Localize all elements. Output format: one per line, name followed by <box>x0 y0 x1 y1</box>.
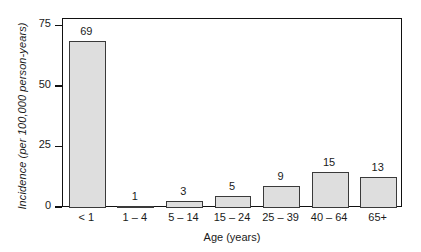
bar <box>263 186 300 208</box>
bar-value-label: 15 <box>305 156 354 168</box>
x-axis-tick-label: 25 – 39 <box>256 211 305 223</box>
x-axis-tick-label: 5 – 14 <box>159 211 208 223</box>
y-axis-tick-label: 50 <box>39 78 51 90</box>
bar <box>360 177 397 209</box>
x-axis-tick-label: 1 – 4 <box>111 211 160 223</box>
bar-value-label: 13 <box>353 161 402 173</box>
x-axis-tick-label: 15 – 24 <box>208 211 257 223</box>
x-axis-title: Age (years) <box>62 231 402 243</box>
x-axis-tick-label: < 1 <box>62 211 111 223</box>
plot-area <box>62 18 402 207</box>
bar-value-label: 1 <box>111 190 160 202</box>
y-axis-tick-label: 75 <box>39 17 51 29</box>
y-axis-tick-mark <box>55 85 62 86</box>
bar <box>117 206 154 208</box>
x-axis-tick-label: 40 – 64 <box>305 211 354 223</box>
bar <box>166 201 203 208</box>
bar-value-label: 9 <box>256 170 305 182</box>
y-axis-tick-mark <box>55 206 62 207</box>
bar <box>312 172 349 208</box>
bar <box>215 196 252 208</box>
y-axis-title: Incidence (per 100,000 person-years) <box>16 16 28 216</box>
bar <box>69 41 106 208</box>
x-axis-tick-label: 65+ <box>353 211 402 223</box>
y-axis-tick-mark <box>55 146 62 147</box>
bar-chart: Incidence (per 100,000 person-years) 025… <box>0 0 421 252</box>
bar-value-label: 3 <box>159 185 208 197</box>
y-axis-tick-label: 25 <box>39 138 51 150</box>
y-axis-tick-mark <box>55 25 62 26</box>
bar-value-label: 69 <box>62 25 111 37</box>
y-axis-tick-label: 0 <box>45 199 51 211</box>
bar-value-label: 5 <box>208 180 257 192</box>
